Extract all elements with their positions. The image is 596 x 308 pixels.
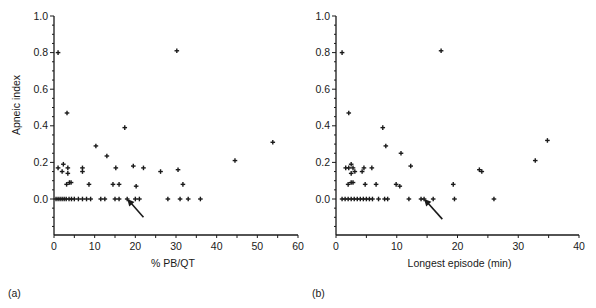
data-point-marker: [431, 197, 436, 202]
y-tick-label: 0.6: [33, 83, 48, 95]
x-tick-label: 30: [512, 240, 524, 252]
data-point-marker: [98, 197, 103, 202]
scatter-panel-a: 0.00.20.40.60.81.00102030405060% PB/QTAp…: [10, 10, 304, 270]
data-point-marker: [385, 197, 390, 202]
data-point-marker: [198, 197, 203, 202]
y-tick-label: 0.0: [315, 193, 330, 205]
data-point-marker: [452, 197, 457, 202]
data-point-marker: [72, 197, 77, 202]
x-tick-label: 10: [391, 240, 403, 252]
data-point-marker: [88, 197, 93, 202]
data-point-marker: [122, 125, 127, 130]
panel-label-b: (b): [312, 287, 325, 299]
scatter-panel-b: 0.00.20.40.60.81.0010203040Longest episo…: [315, 10, 585, 270]
x-axis-title: % PB/QT: [151, 257, 195, 269]
data-point-marker: [105, 154, 110, 159]
data-point-marker: [186, 197, 191, 202]
x-tick-label: 30: [170, 240, 182, 252]
data-point-marker: [158, 169, 163, 174]
data-point-marker: [233, 158, 238, 163]
panel-label-a: (a): [8, 287, 21, 299]
data-point-marker: [166, 197, 171, 202]
arrow-annotation-icon: [424, 199, 442, 219]
y-tick-label: 0.6: [315, 83, 330, 95]
data-point-marker: [84, 197, 89, 202]
data-point-marker: [370, 197, 375, 202]
y-tick-label: 0.2: [315, 156, 330, 168]
data-point-marker: [408, 164, 413, 169]
data-point-marker: [80, 169, 85, 174]
x-axis-title: Longest episode (min): [408, 257, 512, 269]
data-point-marker: [87, 182, 92, 187]
data-point-marker: [363, 182, 368, 187]
data-point-marker: [178, 197, 183, 202]
y-tick-label: 0.4: [33, 119, 48, 131]
data-point-marker: [141, 166, 146, 171]
data-point-marker: [374, 182, 379, 187]
data-point-marker: [117, 197, 122, 202]
data-point-marker: [94, 144, 99, 149]
x-tick-label: 40: [573, 240, 585, 252]
data-point-marker: [380, 125, 385, 130]
y-tick-label: 0.2: [33, 156, 48, 168]
y-tick-label: 0.0: [33, 193, 48, 205]
data-point-marker: [61, 162, 66, 167]
data-point-marker: [492, 197, 497, 202]
data-point-marker: [346, 166, 351, 171]
data-point-marker: [384, 144, 389, 149]
x-tick-label: 40: [211, 240, 223, 252]
data-point-marker: [176, 167, 181, 172]
data-point-marker: [60, 169, 65, 174]
data-point-marker: [134, 184, 139, 189]
data-point-marker: [76, 197, 81, 202]
y-axis-title: Apneic index: [10, 74, 22, 135]
data-point-marker: [103, 197, 108, 202]
data-point-marker: [346, 111, 351, 116]
data-point-marker: [131, 164, 136, 169]
x-tick-label: 0: [51, 240, 57, 252]
data-point-marker: [80, 197, 85, 202]
data-point-marker: [181, 182, 186, 187]
data-point-marker: [533, 158, 538, 163]
data-point-marker: [117, 182, 122, 187]
data-point-marker: [340, 50, 345, 55]
data-point-marker: [270, 140, 275, 145]
y-tick-label: 0.8: [315, 46, 330, 58]
data-point-marker: [111, 182, 116, 187]
data-point-marker: [407, 197, 412, 202]
x-tick-label: 60: [292, 240, 304, 252]
data-point-marker: [56, 50, 61, 55]
data-point-marker: [370, 166, 375, 171]
data-point-marker: [66, 166, 71, 171]
data-point-marker: [451, 182, 456, 187]
data-point-marker: [376, 197, 381, 202]
y-tick-label: 0.4: [315, 119, 330, 131]
data-point-marker: [114, 166, 119, 171]
x-tick-label: 0: [333, 240, 339, 252]
x-tick-label: 20: [129, 240, 141, 252]
data-point-marker: [175, 48, 180, 53]
data-point-marker: [66, 171, 71, 176]
data-point-marker: [545, 138, 550, 143]
data-point-marker: [399, 151, 404, 156]
data-point-marker: [113, 197, 118, 202]
y-tick-label: 1.0: [33, 10, 48, 22]
x-tick-label: 10: [89, 240, 101, 252]
x-tick-label: 50: [251, 240, 263, 252]
data-point-marker: [439, 48, 444, 53]
data-point-marker: [137, 197, 142, 202]
y-tick-label: 1.0: [315, 10, 330, 22]
x-tick-label: 20: [452, 240, 464, 252]
data-point-marker: [56, 166, 61, 171]
y-tick-label: 0.8: [33, 46, 48, 58]
data-point-marker: [133, 197, 138, 202]
figure-canvas: 0.00.20.40.60.81.00102030405060% PB/QTAp…: [0, 0, 596, 308]
data-point-marker: [65, 111, 70, 116]
arrow-annotation-icon: [127, 199, 143, 217]
